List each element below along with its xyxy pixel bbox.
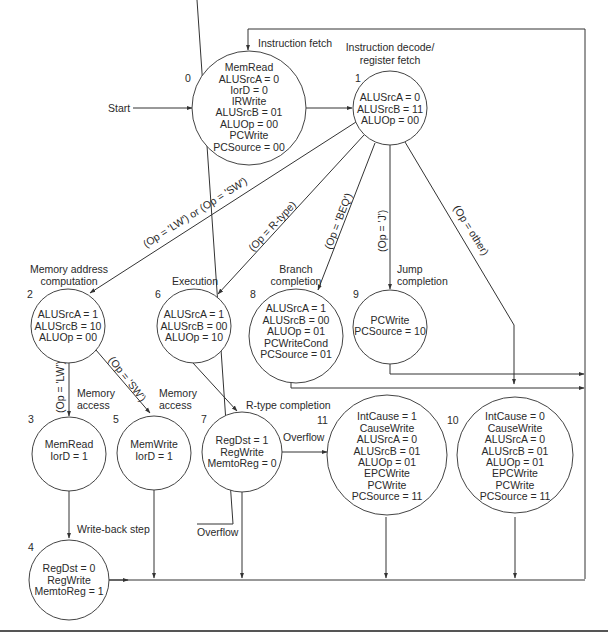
state-0-title: Instruction fetch: [258, 37, 332, 49]
state-6-signal: ALUOp = 10: [165, 331, 223, 343]
state-0-signal: PCSource = 00: [213, 141, 285, 153]
state-5-title-line2: access: [159, 399, 192, 411]
state-10: IntCause = 0 CauseWrite ALUSrcA = 0 ALUS…: [457, 397, 573, 513]
state-1-number: 1: [355, 72, 361, 84]
state-5: MemWrite IorD = 1: [117, 416, 191, 490]
edge-label-j: (Op = 'J'): [376, 210, 388, 252]
edge-label-lw-or-sw: (Op = 'LW') or (Op = 'SW'): [141, 175, 250, 250]
state-0-number: 0: [185, 72, 191, 84]
edge-6-7: [193, 363, 237, 411]
state-11-signal: PCSource = 11: [352, 490, 423, 502]
state-0: MemRead ALUSrcA = 0 IorD = 0 IRWrite ALU…: [192, 51, 306, 165]
state-10-signal: ALUSrcA = 0: [485, 433, 546, 445]
state-3: MemRead IorD = 1: [32, 417, 106, 491]
state-9-title-line1: Jump: [397, 263, 423, 275]
edge-9-return: [390, 364, 584, 374]
state-8-title-line2: completion: [271, 275, 322, 287]
state-6-signal: ALUSrcA = 1: [164, 308, 225, 320]
state-5-signal: MemWrite: [130, 438, 178, 450]
state-11-signal: ALUSrcA = 0: [357, 433, 418, 445]
edge-1-8: [318, 143, 375, 290]
bottom-rule: [0, 630, 608, 632]
state-5-number: 5: [113, 413, 119, 425]
state-8-signal: ALUOp = 01: [267, 325, 325, 337]
state-7-signal: MemtoReg = 0: [207, 457, 276, 469]
state-4-title: Write-back step: [77, 523, 150, 535]
state-10-number: 10: [447, 414, 459, 426]
state-2-signal: ALUSrcA = 1: [38, 308, 99, 320]
state-1-signal: ALUOp = 00: [361, 114, 419, 126]
state-4-signal: MemtoReg = 1: [34, 585, 103, 597]
state-3-title-line2: access: [77, 399, 110, 411]
edge-label-not-overflow: Overflow: [197, 526, 239, 538]
state-8-signal: PCSource = 01: [260, 348, 332, 360]
start-label: Start: [108, 102, 130, 114]
state-0-signal: ALUSrcB = 01: [216, 106, 283, 118]
state-11-number: 11: [317, 414, 328, 426]
state-9-title-line2: completion: [397, 275, 448, 287]
state-9-number: 9: [353, 288, 359, 300]
edge-label-lw: (Op = 'LW'): [54, 361, 66, 413]
state-7-number: 7: [201, 413, 207, 425]
state-6: ALUSrcA = 1 ALUSrcB = 00 ALUOp = 10: [157, 289, 231, 363]
fsm-diagram: Start (Op = 'LW') or (Op = 'SW') (Op = R…: [0, 0, 608, 639]
state-8-signal: ALUSrcA = 1: [266, 302, 327, 314]
state-3-signal: IorD = 1: [50, 450, 88, 462]
state-10-signal: EPCWrite: [492, 467, 538, 479]
state-10-signal: IntCause = 0: [485, 410, 545, 422]
state-0-signal: PCWrite: [230, 129, 269, 141]
state-5-title-line1: Memory: [159, 387, 198, 399]
state-2-number: 2: [27, 288, 33, 300]
state-0-signal: MemRead: [225, 61, 274, 73]
edge-label-overflow: Overflow: [283, 431, 325, 443]
state-1-title-line2: register fetch: [360, 54, 421, 66]
state-2: ALUSrcA = 1 ALUSrcB = 10 ALUOp = 00: [31, 289, 105, 363]
state-5-signal: IorD = 1: [135, 450, 173, 462]
state-7: RegDst = 1 RegWrite MemtoReg = 0: [202, 412, 282, 492]
state-11-signal: EPCWrite: [364, 467, 410, 479]
state-11-signal: IntCause = 1: [357, 410, 417, 422]
edge-label-beq: (Op = 'BEQ'): [322, 191, 354, 251]
edge-8-return: [291, 383, 584, 388]
state-2-signal: ALUOp = 00: [39, 331, 97, 343]
state-7-signal: RegDst = 1: [216, 434, 269, 446]
state-3-signal: MemRead: [45, 438, 94, 450]
state-1: ALUSrcA = 0 ALUSrcB = 11 ALUOp = 00: [353, 71, 427, 145]
state-8-number: 8: [250, 288, 256, 300]
edge-label-rtype: (Op = R-type): [246, 198, 298, 253]
state-8: ALUSrcA = 1 ALUSrcB = 00 ALUOp = 01 PCWr…: [249, 289, 343, 383]
state-8-title-line1: Branch: [279, 263, 312, 275]
state-2-title-line1: Memory address: [30, 263, 108, 275]
state-4-number: 4: [28, 541, 34, 553]
state-10-signal: PCSource = 11: [480, 490, 551, 502]
state-9: PCWrite PCSource = 10: [353, 290, 427, 364]
state-1-signal: ALUSrcA = 0: [360, 91, 421, 103]
state-3-title-line1: Memory: [77, 387, 116, 399]
state-9-signal: PCSource = 10: [354, 325, 426, 337]
state-1-title-line1: Instruction decode/: [346, 41, 435, 53]
state-11: IntCause = 1 CauseWrite ALUSrcA = 0 ALUS…: [327, 395, 447, 515]
state-3-number: 3: [28, 413, 34, 425]
state-4-signal: RegDst = 0: [43, 562, 96, 574]
state-6-title: Execution: [172, 275, 218, 287]
state-6-number: 6: [155, 288, 161, 300]
state-4: RegDst = 0 RegWrite MemtoReg = 1: [29, 540, 109, 620]
state-2-title-line2: computation: [40, 275, 97, 287]
state-7-title: R-type completion: [246, 399, 331, 411]
